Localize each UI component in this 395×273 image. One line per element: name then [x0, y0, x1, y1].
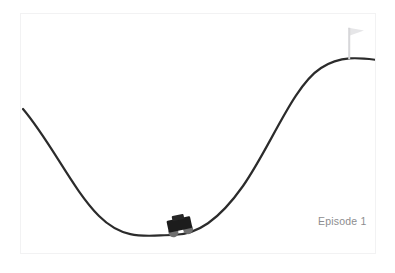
- mountaincar-render-window: Episode 1: [0, 0, 395, 273]
- episode-label: Episode 1: [318, 215, 367, 227]
- render-panel: Episode 1: [20, 13, 376, 254]
- goal-flag-icon: [348, 28, 364, 59]
- hill-curve-icon: [23, 58, 376, 236]
